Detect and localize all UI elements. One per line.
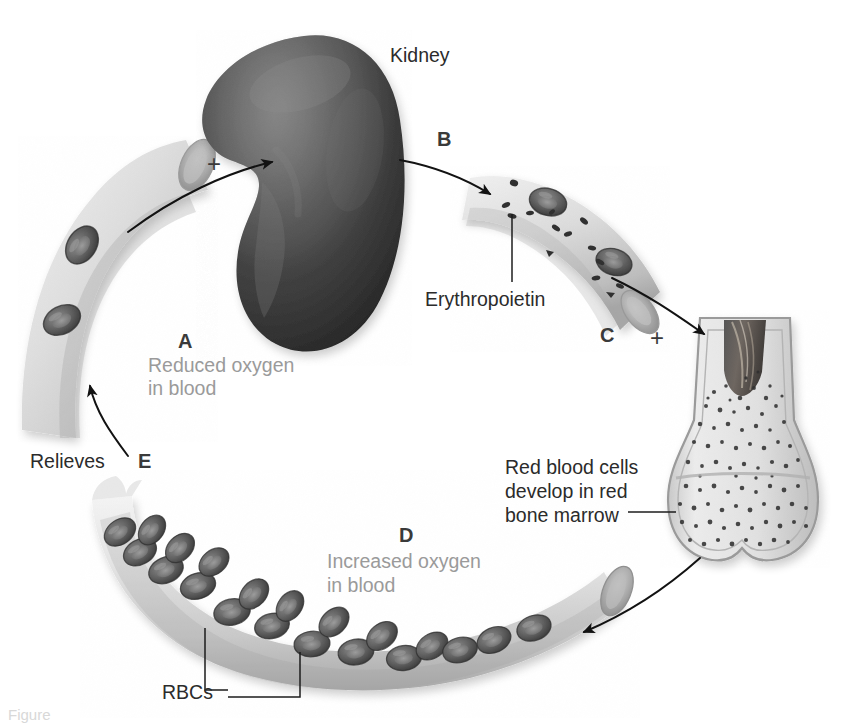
plus-sign-marrow: + [650,326,664,350]
label-kidney: Kidney [390,44,450,67]
label-bone-marrow-line3: bone marrow [505,504,619,527]
step-letter-a: A [178,330,192,353]
label-increased-oxygen-line2: in blood [327,574,395,597]
label-increased-oxygen-line1: Increased oxygen [327,550,481,573]
plus-sign-kidney: + [207,152,221,176]
label-reduced-oxygen-line2: in blood [148,377,216,400]
vessel-erythropoietin [450,166,670,352]
step-letter-e: E [138,450,151,473]
label-relieves: Relieves [30,450,105,473]
label-erythropoietin: Erythropoietin [425,288,545,311]
figure-caption-fragment: Figure [8,706,51,723]
erythropoiesis-figure: Kidney + B Erythropoietin C + A Reduced … [0,0,853,724]
label-reduced-oxygen-line1: Reduced oxygen [148,354,294,377]
step-letter-b: B [437,128,451,151]
step-letter-c: C [600,324,614,347]
label-rbcs: RBCs [162,681,213,704]
label-bone-marrow-line1: Red blood cells [505,456,638,479]
label-bone-marrow-line2: develop in red [505,480,628,503]
diagram-artwork [0,0,853,724]
step-letter-d: D [399,524,413,547]
long-bone [660,310,830,568]
kidney-organ [196,30,412,366]
